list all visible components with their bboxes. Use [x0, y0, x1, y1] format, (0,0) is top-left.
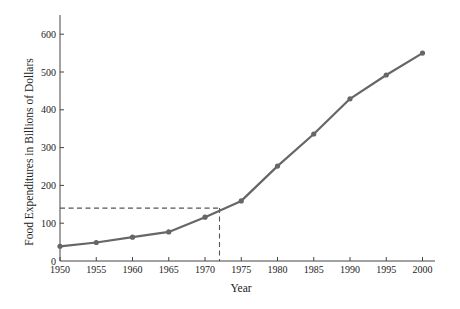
- data-point-marker: [57, 244, 62, 249]
- y-axis-title: Food Expenditures in Billions of Dollars: [23, 58, 36, 246]
- x-tick-label: 1995: [376, 264, 396, 275]
- y-tick-label: 400: [41, 104, 56, 115]
- x-tick-label: 1965: [159, 264, 179, 275]
- y-tick-label: 600: [41, 29, 56, 40]
- x-tick-label: 1980: [268, 264, 288, 275]
- reference-dashed-lines: [60, 208, 220, 261]
- y-tick-label: 500: [41, 67, 56, 78]
- x-tick-label: 2000: [413, 264, 433, 275]
- x-tick-label: 1955: [86, 264, 106, 275]
- axes: 1950195519601965197019751980198519901995…: [41, 15, 435, 275]
- axis-labels: Year Food Expenditures in Billions of Do…: [23, 58, 252, 294]
- data-series: [57, 51, 425, 249]
- data-point-marker: [347, 96, 352, 101]
- y-tick-label: 100: [41, 218, 56, 229]
- x-tick-label: 1985: [304, 264, 324, 275]
- x-tick-label: 1990: [340, 264, 360, 275]
- data-point-marker: [239, 198, 244, 203]
- line-chart: 1950195519601965197019751980198519901995…: [0, 0, 460, 309]
- x-tick-label: 1975: [231, 264, 251, 275]
- data-point-marker: [202, 215, 207, 220]
- data-point-marker: [94, 240, 99, 245]
- data-point-marker: [130, 235, 135, 240]
- data-point-marker: [420, 51, 425, 56]
- y-tick-label: 300: [41, 142, 56, 153]
- data-point-marker: [311, 131, 316, 136]
- x-axis-title: Year: [230, 282, 251, 294]
- x-tick-label: 1970: [195, 264, 215, 275]
- x-tick-label: 1960: [123, 264, 143, 275]
- y-tick-label: 0: [51, 256, 56, 267]
- data-point-marker: [384, 72, 389, 77]
- y-tick-label: 200: [41, 180, 56, 191]
- data-point-marker: [275, 164, 280, 169]
- data-point-marker: [166, 229, 171, 234]
- series-line: [60, 53, 423, 246]
